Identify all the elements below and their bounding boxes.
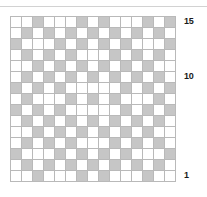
- grid-cell: [132, 39, 143, 50]
- grid-cell: [154, 94, 165, 105]
- grid-cell: [55, 160, 66, 171]
- grid-cell: [132, 83, 143, 94]
- grid-cell: [22, 28, 33, 39]
- grid-cell: [11, 105, 22, 116]
- axis-tick-label-10: 10: [184, 71, 194, 82]
- grid-cell: [154, 28, 165, 39]
- grid-cell: [55, 105, 66, 116]
- grid-cell: [11, 160, 22, 171]
- grid-cell: [66, 50, 77, 61]
- grid-cell: [22, 149, 33, 160]
- grid-cell: [66, 105, 77, 116]
- grid-cell: [55, 138, 66, 149]
- grid-cell: [99, 116, 110, 127]
- grid-cell: [88, 39, 99, 50]
- grid-cell: [143, 160, 154, 171]
- grid-cell: [55, 61, 66, 72]
- grid-cell: [143, 127, 154, 138]
- grid-cell: [33, 127, 44, 138]
- grid-cell: [99, 17, 110, 28]
- grid-cell: [11, 149, 22, 160]
- grid-cell: [110, 138, 121, 149]
- grid-cell: [11, 28, 22, 39]
- grid-cell: [88, 171, 99, 182]
- grid-cell: [121, 17, 132, 28]
- grid-cell: [154, 50, 165, 61]
- grid-cell: [77, 105, 88, 116]
- grid-cell: [66, 94, 77, 105]
- grid-cell: [55, 149, 66, 160]
- grid-cell: [165, 17, 176, 28]
- grid-cell: [121, 94, 132, 105]
- grid-row: [11, 28, 176, 39]
- grid-cell: [44, 138, 55, 149]
- grid-cell: [44, 39, 55, 50]
- grid-cell: [88, 28, 99, 39]
- grid-cell: [110, 171, 121, 182]
- grid-cell: [22, 39, 33, 50]
- grid-cell: [22, 72, 33, 83]
- axis-tick-label-1: 1: [184, 170, 189, 181]
- grid-cell: [11, 94, 22, 105]
- grid-cell: [77, 127, 88, 138]
- grid-cell: [66, 39, 77, 50]
- cell-grid: [10, 16, 176, 182]
- grid-cell: [110, 61, 121, 72]
- grid-cell: [110, 83, 121, 94]
- grid-cell: [154, 160, 165, 171]
- grid-cell: [132, 127, 143, 138]
- grid-cell: [33, 61, 44, 72]
- grid-cell: [33, 105, 44, 116]
- grid-cell: [143, 61, 154, 72]
- grid-cell: [165, 160, 176, 171]
- grid-cell: [11, 171, 22, 182]
- grid-cell: [44, 72, 55, 83]
- grid-cell: [77, 171, 88, 182]
- grid-cell: [143, 149, 154, 160]
- grid-plot: [10, 16, 176, 182]
- grid-cell: [22, 171, 33, 182]
- grid-cell: [11, 17, 22, 28]
- grid-row: [11, 39, 176, 50]
- grid-cell: [143, 17, 154, 28]
- grid-cell: [11, 83, 22, 94]
- grid-cell: [110, 116, 121, 127]
- grid-row: [11, 72, 176, 83]
- grid-cell: [110, 17, 121, 28]
- grid-cell: [154, 39, 165, 50]
- grid-cell: [143, 72, 154, 83]
- grid-row: [11, 127, 176, 138]
- grid-cell: [132, 17, 143, 28]
- grid-cell: [165, 28, 176, 39]
- grid-cell: [11, 116, 22, 127]
- grid-cell: [121, 72, 132, 83]
- grid-cell: [77, 72, 88, 83]
- grid-cell: [99, 160, 110, 171]
- grid-cell: [88, 138, 99, 149]
- grid-cell: [22, 138, 33, 149]
- grid-cell: [154, 61, 165, 72]
- grid-cell: [143, 116, 154, 127]
- grid-row: [11, 149, 176, 160]
- grid-cell: [143, 105, 154, 116]
- grid-cell: [99, 39, 110, 50]
- grid-cell: [132, 160, 143, 171]
- grid-cell: [154, 127, 165, 138]
- grid-cell: [165, 83, 176, 94]
- grid-cell: [55, 171, 66, 182]
- grid-cell: [165, 138, 176, 149]
- grid-cell: [55, 39, 66, 50]
- grid-cell: [110, 94, 121, 105]
- grid-cell: [88, 17, 99, 28]
- grid-cell: [66, 83, 77, 94]
- grid-cell: [22, 105, 33, 116]
- grid-cell: [55, 83, 66, 94]
- grid-cell: [132, 72, 143, 83]
- grid-cell: [22, 116, 33, 127]
- grid-cell: [110, 72, 121, 83]
- grid-cell: [44, 171, 55, 182]
- grid-cell: [121, 28, 132, 39]
- grid-cell: [154, 17, 165, 28]
- cell-grid-body: [11, 17, 176, 182]
- grid-cell: [88, 160, 99, 171]
